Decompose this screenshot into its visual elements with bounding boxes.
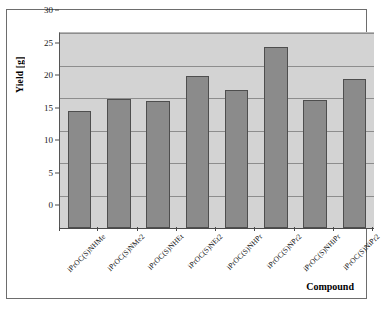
x-tick-label: iPrOC(S)NHPr xyxy=(224,232,264,272)
bar-slot xyxy=(60,33,99,228)
x-tick-label: iPrOC(S)NiPr2 xyxy=(342,232,382,272)
bar[interactable] xyxy=(107,99,131,228)
y-tick-mark xyxy=(55,10,59,11)
bar[interactable] xyxy=(264,47,288,228)
bar[interactable] xyxy=(186,76,210,228)
bar-series xyxy=(60,33,374,228)
y-tick-label: 25 xyxy=(44,38,53,48)
x-tick-label: iPrOC(S)NMe2 xyxy=(105,232,146,273)
y-axis-ticks: 051015202530 xyxy=(7,10,59,205)
bar[interactable] xyxy=(68,111,92,228)
x-tick-label: iPrOC(S)NEt2 xyxy=(186,232,224,270)
y-tick-label: 30 xyxy=(44,5,53,15)
bar-slot xyxy=(296,33,335,228)
chart-figure: Yield [g] 051015202530 iPrOC(S)NHMeiPrOC… xyxy=(0,0,385,322)
bar-slot xyxy=(99,33,138,228)
y-tick-label: 0 xyxy=(49,200,54,210)
bar-slot xyxy=(256,33,295,228)
bar-slot xyxy=(139,33,178,228)
x-tick-label: iPrOC(S)NHEt xyxy=(146,232,186,272)
bar-slot xyxy=(178,33,217,228)
bar[interactable] xyxy=(343,79,367,228)
bar-slot xyxy=(335,33,374,228)
bar[interactable] xyxy=(225,90,249,228)
y-tick-label: 10 xyxy=(44,135,53,145)
x-tick-label: iPrOC(S)NHiPr xyxy=(301,232,342,273)
x-tick-label: iPrOC(S)NPr2 xyxy=(265,232,303,270)
y-tick-label: 15 xyxy=(44,103,53,113)
bar[interactable] xyxy=(303,100,327,228)
y-tick-label: 5 xyxy=(49,168,54,178)
bar[interactable] xyxy=(146,101,170,228)
bar-slot xyxy=(217,33,256,228)
chart-frame: Yield [g] 051015202530 iPrOC(S)NHMeiPrOC… xyxy=(6,9,367,299)
x-axis-title: Compound xyxy=(306,281,354,292)
x-tick-label: iPrOC(S)NHMe xyxy=(65,232,107,274)
plot-area xyxy=(59,32,374,228)
y-tick-label: 20 xyxy=(44,70,53,80)
